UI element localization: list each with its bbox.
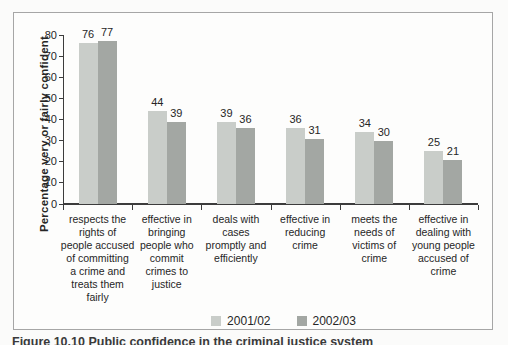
y-axis-tick (59, 35, 63, 36)
bar-2002-03-cat3 (236, 128, 255, 204)
y-axis-tick-label: 40 (31, 113, 57, 125)
bar-2001-02-cat3 (217, 122, 236, 204)
y-axis-tick-label: 60 (31, 71, 57, 83)
y-axis-tick-label: 50 (31, 92, 57, 104)
x-axis-tick (271, 205, 272, 210)
legend-item-2002-03: 2002/03 (297, 314, 356, 328)
bar-value-label: 30 (368, 126, 400, 138)
bar-value-label: 36 (229, 113, 261, 125)
bar-2001-02-cat4 (286, 128, 305, 204)
y-axis-tick-label: 30 (31, 134, 57, 146)
figure-caption: Figure 10.10 Public confidence in the cr… (12, 335, 502, 345)
page: Percentage very or fairly confident 0102… (0, 0, 508, 345)
y-axis-tick (59, 182, 63, 183)
legend: 2001/02 2002/03 (76, 314, 491, 328)
legend-label-2002-03: 2002/03 (313, 314, 356, 328)
figure-box: Percentage very or fairly confident 0102… (13, 12, 493, 330)
y-axis-tick-label: 20 (31, 155, 57, 167)
x-axis-tick (63, 205, 64, 210)
category-label: effective in bringing people who commit … (127, 213, 207, 291)
category-label: deals with cases promptly and efficientl… (196, 213, 276, 265)
legend-swatch-2002-03-icon (297, 316, 307, 326)
y-axis-tick-label: 70 (31, 50, 57, 62)
y-axis-tick-label: 0 (31, 198, 57, 210)
y-axis-tick (59, 56, 63, 57)
category-label: effective in reducing crime (265, 213, 345, 252)
y-axis-line (63, 35, 64, 205)
x-axis-tick (132, 205, 133, 210)
bar-2001-02-cat1 (79, 43, 98, 204)
x-axis-tick (409, 205, 410, 210)
bar-2001-02-cat6 (424, 151, 443, 204)
y-axis-tick (59, 77, 63, 78)
category-label: respects the rights of people accused of… (58, 213, 138, 304)
bar-2002-03-cat1 (98, 41, 117, 204)
legend-label-2001-02: 2001/02 (227, 314, 270, 328)
y-axis-tick-label: 10 (31, 176, 57, 188)
x-axis-tick (478, 205, 479, 210)
bar-2001-02-cat5 (355, 132, 374, 204)
legend-swatch-2001-02-icon (211, 316, 221, 326)
bar-2002-03-cat4 (305, 139, 324, 204)
y-axis-tick (59, 119, 63, 120)
y-axis-tick-label: 80 (31, 29, 57, 41)
y-axis-tick (59, 140, 63, 141)
bar-value-label: 21 (437, 145, 469, 157)
bar-value-label: 39 (160, 107, 192, 119)
bar-value-label: 77 (91, 26, 123, 38)
y-axis-tick (59, 161, 63, 162)
y-axis-tick (59, 98, 63, 99)
bar-2001-02-cat2 (148, 111, 167, 204)
legend-item-2001-02: 2001/02 (211, 314, 270, 328)
bar-2002-03-cat5 (374, 141, 393, 204)
bar-2002-03-cat2 (167, 122, 186, 204)
bar-value-label: 31 (299, 124, 331, 136)
category-label: meets the needs of victims of crime (334, 213, 414, 265)
x-axis-tick (201, 205, 202, 210)
bar-2002-03-cat6 (443, 160, 462, 204)
category-label: effective in dealing with young people a… (403, 213, 483, 278)
x-axis-tick (340, 205, 341, 210)
